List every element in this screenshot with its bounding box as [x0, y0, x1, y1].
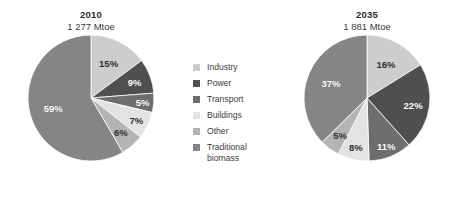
legend-item-label: Transport	[207, 94, 243, 105]
legend-item[interactable]: Industry	[193, 62, 279, 73]
legend-item-label: Power	[207, 78, 231, 89]
pie-slice-label: 37%	[321, 77, 340, 88]
pie-slice-label: 9%	[128, 76, 142, 87]
legend-item-label: Buildings	[207, 110, 242, 121]
legend-item[interactable]: Traditional biomass	[193, 142, 279, 163]
pie-chart-figure: 2010 1 277 Mtoe 15%9%5%7%6%59% 2035 1 88…	[0, 0, 454, 222]
legend-item[interactable]: Power	[193, 78, 279, 89]
pie-2010: 15%9%5%7%6%59%	[26, 33, 156, 163]
legend-swatch-icon	[193, 64, 200, 71]
chart-title-2035: 2035	[280, 9, 454, 21]
pie-slice-label: 16%	[376, 58, 395, 69]
pie-slice-label: 59%	[44, 103, 63, 114]
pie-slice-label: 11%	[377, 141, 396, 152]
pie-2035: 16%22%11%8%5%37%	[302, 33, 432, 163]
chart-subtitle-2010: 1 277 Mtoe	[0, 21, 182, 33]
legend-item-label: Industry	[207, 62, 238, 73]
pie-slice-label: 6%	[114, 127, 128, 138]
legend-item-label: Other	[207, 126, 229, 137]
legend-item[interactable]: Other	[193, 126, 279, 137]
legend-item-label: Traditional biomass	[207, 142, 247, 163]
pie-svg	[302, 33, 432, 163]
pie-slice-label: 5%	[136, 97, 150, 108]
legend-swatch-icon	[193, 112, 200, 119]
pie-slice-label: 7%	[130, 115, 144, 126]
chart-panel-2010: 2010 1 277 Mtoe 15%9%5%7%6%59%	[0, 0, 182, 163]
pie-slice-label: 15%	[99, 58, 118, 69]
pie-slice-label: 5%	[333, 129, 347, 140]
legend-swatch-icon	[193, 144, 200, 151]
legend-swatch-icon	[193, 96, 200, 103]
chart-panel-2035: 2035 1 881 Mtoe 16%22%11%8%5%37%	[280, 0, 454, 163]
legend-swatch-icon	[193, 128, 200, 135]
legend-item[interactable]: Buildings	[193, 110, 279, 121]
pie-slice-label: 22%	[404, 99, 423, 110]
chart-subtitle-2035: 1 881 Mtoe	[280, 21, 454, 33]
chart-title-2010: 2010	[0, 9, 182, 21]
pie-slice-label: 8%	[349, 142, 363, 153]
chart-legend: IndustryPowerTransportBuildingsOtherTrad…	[193, 62, 279, 169]
legend-item[interactable]: Transport	[193, 94, 279, 105]
legend-swatch-icon	[193, 80, 200, 87]
